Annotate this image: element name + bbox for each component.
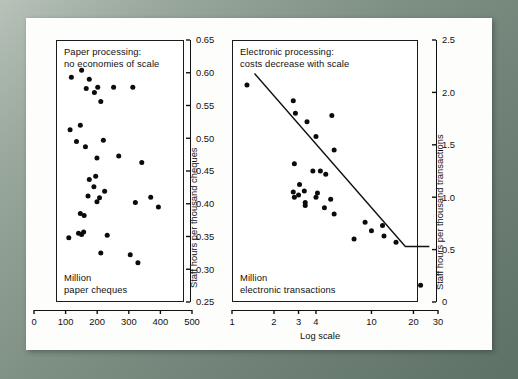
chart-electronic-processing: Electronic processing: costs decrease wi… — [222, 18, 492, 350]
svg-text:500: 500 — [184, 316, 200, 327]
svg-text:300: 300 — [121, 316, 137, 327]
svg-text:100: 100 — [58, 316, 74, 327]
electronic-xaxis-title: Log scale — [300, 330, 340, 341]
figure-frame: Paper processing: no economies of scale … — [0, 0, 518, 379]
svg-text:30: 30 — [433, 316, 443, 327]
svg-text:1: 1 — [229, 316, 234, 327]
svg-text:20: 20 — [408, 316, 418, 327]
figure-paper: Paper processing: no economies of scale … — [26, 18, 492, 350]
svg-text:2: 2 — [271, 316, 276, 327]
svg-text:3: 3 — [296, 316, 301, 327]
svg-text:10: 10 — [366, 316, 376, 327]
svg-text:400: 400 — [153, 316, 169, 327]
electronic-xaxis-ticks: 1234102030 — [222, 18, 492, 350]
svg-text:0: 0 — [31, 316, 36, 327]
svg-text:4: 4 — [313, 316, 318, 327]
svg-text:200: 200 — [89, 316, 105, 327]
